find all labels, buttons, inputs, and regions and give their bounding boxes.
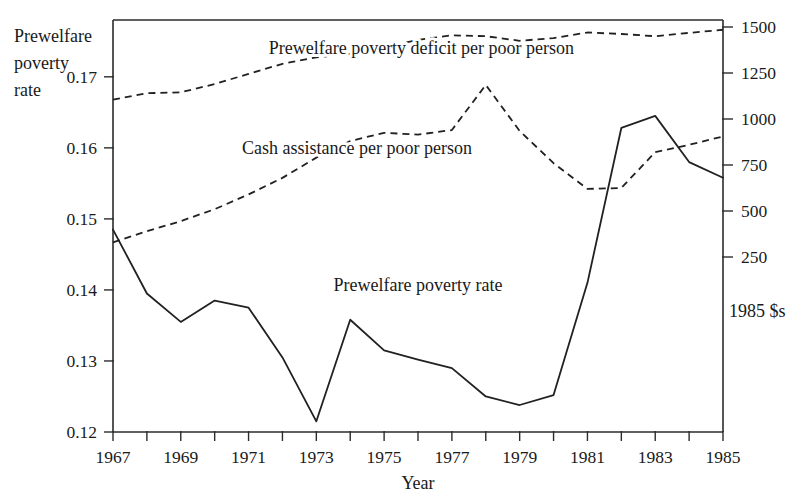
chart-figure: 0.120.130.140.150.160.17 250500750100012… (0, 0, 807, 500)
data-series-group (113, 30, 723, 422)
right-tick-label: 750 (741, 155, 768, 175)
series-label: Prewelfare poverty rate (334, 275, 503, 295)
right-axis-tick-labels: 250500750100012501500 (741, 17, 776, 267)
x-tick-label: 1981 (570, 447, 605, 467)
x-tick-label: 1985 (706, 447, 741, 467)
right-tick-label: 1000 (741, 109, 776, 129)
left-tick-label: 0.12 (66, 422, 97, 442)
x-tick-label: 1969 (163, 447, 198, 467)
x-tick-label: 1971 (231, 447, 266, 467)
series-line (113, 85, 723, 242)
x-tick-label: 1977 (434, 447, 469, 467)
x-axis-tick-labels: 1967196919711973197519771979198119831985 (96, 447, 741, 467)
right-axis-unit-label: 1985 $s (729, 301, 786, 321)
left-axis-title-line-1: Prewelfare (14, 26, 92, 46)
left-tick-label: 0.15 (66, 209, 97, 229)
right-tick-label: 250 (741, 247, 768, 267)
series-label: Prewelfare poverty deficit per poor pers… (269, 38, 574, 58)
axes-group (113, 20, 723, 432)
chart-canvas: 0.120.130.140.150.160.17 250500750100012… (0, 0, 807, 500)
left-axis-title-line-2: poverty (14, 53, 69, 73)
x-tick-label: 1979 (502, 447, 537, 467)
left-axis-tick-labels: 0.120.130.140.150.160.17 (66, 67, 97, 442)
left-tick-label: 0.13 (66, 351, 97, 371)
right-tick-label: 1250 (741, 63, 776, 83)
x-tick-label: 1983 (638, 447, 673, 467)
left-tick-label: 0.17 (66, 67, 97, 87)
series-line (113, 116, 723, 421)
x-tick-label: 1967 (96, 447, 131, 467)
right-tick-label: 500 (741, 201, 768, 221)
left-tick-label: 0.14 (66, 280, 97, 300)
series-annotations: Prewelfare poverty deficit per poor pers… (242, 38, 574, 296)
x-axis-title: Year (401, 473, 434, 493)
left-tick-label: 0.16 (66, 138, 97, 158)
series-label: Cash assistance per poor person (242, 138, 472, 158)
right-tick-label: 1500 (741, 17, 776, 37)
left-axis-title-line-3: rate (14, 80, 41, 100)
x-tick-label: 1973 (299, 447, 334, 467)
x-tick-label: 1975 (367, 447, 402, 467)
